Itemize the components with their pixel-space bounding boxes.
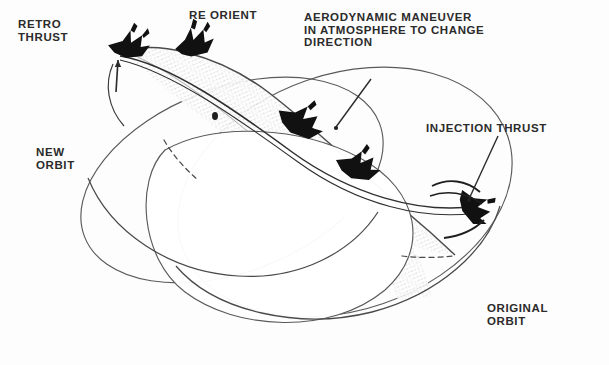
label-re-orient: RE ORIENT [189,9,257,22]
label-retro-thrust: RETRO THRUST [18,18,68,43]
leader-injection-thrust [467,136,498,202]
label-aerodynamic-maneuver: AERODYNAMIC MANEUVER IN ATMOSPHERE TO CH… [304,11,484,49]
retro-thrust-arc-icon [108,64,124,126]
label-new-orbit: NEW ORBIT [36,146,75,171]
planet-surface-mark [212,112,218,120]
label-injection-thrust: INJECTION THRUST [426,122,547,135]
retro-thrust-arrow-icon [115,60,121,92]
central-planet-body [146,131,413,322]
spacecraft-re-orient [174,17,216,60]
label-original-orbit: ORIGINAL ORBIT [487,302,548,327]
diagram-canvas: RETRO THRUST RE ORIENT AERODYNAMIC MANEU… [0,0,609,365]
spacecraft-injection-thrust [456,181,502,230]
